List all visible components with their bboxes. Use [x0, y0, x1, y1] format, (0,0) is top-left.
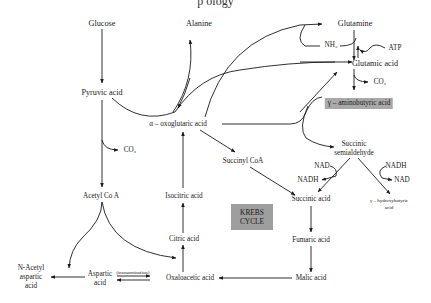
node-citric-acid: Citric acid [169, 235, 199, 244]
node-gaba: γ – aminobutyric acid [325, 98, 393, 109]
node-n-acetyl-line1: N-Acetyl [18, 264, 45, 273]
node-nadh-right: NADH [386, 162, 407, 171]
node-glutamine: Glutamine [338, 19, 373, 28]
node-co2-top: CO₂ [374, 78, 387, 87]
node-n-acetyl-line3: acid [25, 282, 37, 291]
node-nadh-left: NADH [298, 176, 319, 185]
node-glutamic-acid: Glutamic acid [352, 59, 398, 68]
node-oxoglutaric-acid: α – oxoglutaric acid [149, 120, 206, 129]
node-n-acetyl-line2: aspartic [20, 273, 42, 282]
node-aspartic-line2: acid [94, 279, 106, 288]
node-co2-left: CO₂ [124, 146, 137, 155]
krebs-cycle-label: KREBS CYCLE [231, 204, 273, 230]
node-nad-right: NAD [394, 176, 410, 185]
node-alanine: Alanine [186, 19, 212, 28]
node-oxaloacetic-acid: Oxaloacetic acid [166, 274, 214, 283]
krebs-line1: KREBS [231, 208, 273, 217]
node-nad-left: NAD [314, 162, 330, 171]
transamination-label: (transamination) [116, 268, 149, 277]
node-nh3: NH₃ [325, 41, 338, 50]
node-glucose: Glucose [89, 19, 116, 28]
node-isocitric-acid: Isocitric acid [165, 192, 202, 201]
node-acetyl-coa: Acetyl Co A [83, 192, 119, 201]
node-succinyl-coa: Succinyl CoA [223, 157, 264, 166]
node-aspartic-line1: Aspartic [88, 270, 112, 279]
node-fumaric-acid: Fumaric acid [292, 236, 330, 245]
krebs-line2: CYCLE [231, 217, 273, 226]
node-pyruvic-acid: Pyruvic acid [81, 88, 122, 97]
node-succinic-semialdehyde-line2: semialdehyde [334, 149, 374, 158]
node-hydroxybutyric-line2: acid [385, 203, 393, 212]
node-succinic-semialdehyde-line1: Succinic [342, 140, 367, 149]
node-succinic-acid: Succinic acid [292, 195, 331, 204]
node-atp: ATP [389, 44, 402, 53]
node-malic-acid: Malic acid [296, 274, 327, 283]
